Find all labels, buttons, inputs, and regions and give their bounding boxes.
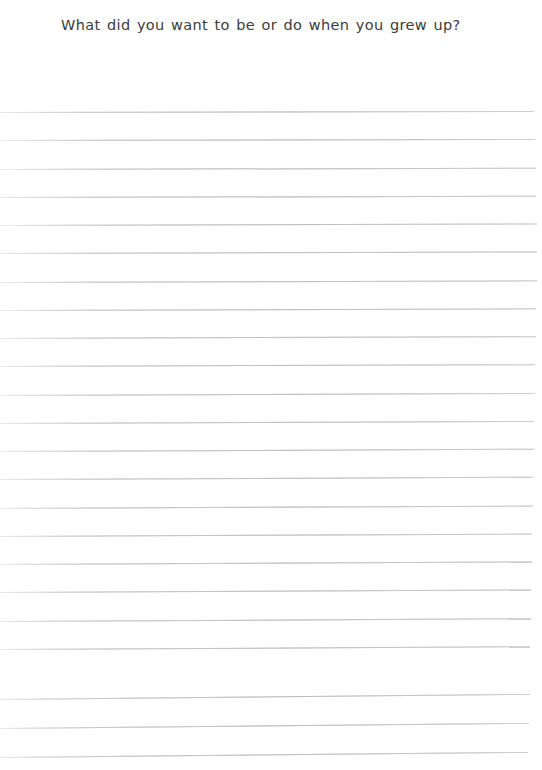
answer-line <box>0 139 535 141</box>
answer-line <box>0 308 536 311</box>
answer-line <box>0 111 534 113</box>
answer-line <box>0 561 532 565</box>
answer-line <box>0 421 534 424</box>
answer-line <box>0 589 531 593</box>
answer-line <box>0 646 530 650</box>
answer-lines-area <box>0 0 542 770</box>
answer-line <box>0 694 530 700</box>
answer-line <box>0 506 533 509</box>
answer-line <box>0 723 529 729</box>
worksheet-page: What did you want to be or do when you g… <box>0 0 542 770</box>
answer-line <box>0 618 531 622</box>
answer-line <box>0 224 537 226</box>
answer-line <box>0 534 532 537</box>
answer-line <box>0 393 535 396</box>
answer-line <box>0 336 536 339</box>
answer-line <box>0 449 534 452</box>
answer-line <box>0 196 536 198</box>
answer-line <box>0 280 537 283</box>
answer-line <box>0 752 528 758</box>
answer-line <box>0 477 533 480</box>
answer-line <box>0 364 535 367</box>
answer-line <box>0 252 537 254</box>
answer-line <box>0 168 536 170</box>
